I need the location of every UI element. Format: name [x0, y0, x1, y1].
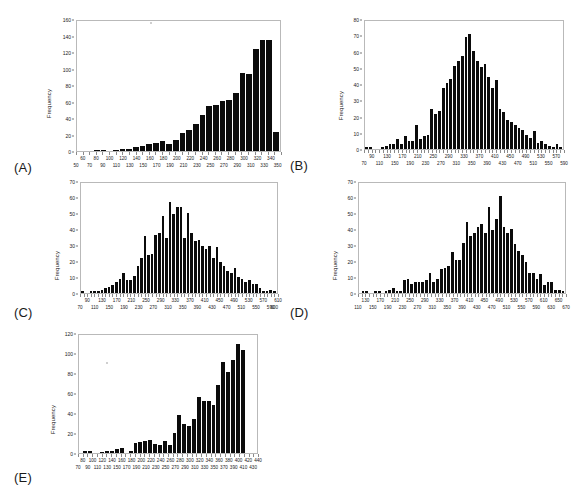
- x-tick-label: 260: [213, 156, 221, 162]
- x-tick-mark: [173, 454, 174, 457]
- x-tick-label: 270: [149, 305, 157, 311]
- x-tick-mark: [500, 294, 501, 297]
- x-tick-mark: [163, 454, 164, 457]
- panel-e-xlabels-lower: 7090110130150170190210230250270290310330…: [78, 465, 258, 472]
- x-tick-mark: [116, 294, 117, 297]
- x-tick-label: 600: [270, 305, 278, 311]
- x-tick-label: 120: [98, 458, 106, 464]
- x-tick-label: 350: [468, 161, 476, 167]
- x-tick-mark: [492, 150, 493, 153]
- x-tick-mark: [394, 150, 395, 153]
- x-tick-mark: [244, 454, 245, 457]
- x-tick-mark: [409, 294, 410, 297]
- x-tick-mark: [253, 454, 254, 457]
- x-tick-label: 390: [483, 161, 491, 167]
- x-tick-label: 610: [540, 298, 548, 304]
- x-tick-label: 170: [123, 465, 131, 471]
- histogram-bar: [369, 147, 373, 149]
- x-tick-mark: [163, 294, 164, 297]
- histogram-bar: [133, 147, 140, 151]
- histogram-bar: [220, 101, 227, 151]
- x-tick-label: 150: [113, 465, 121, 471]
- x-tick-label: 340: [206, 458, 214, 464]
- panel-c: (C) Frequency 010203040506070 9013017021…: [0, 178, 300, 328]
- x-tick-mark: [457, 294, 458, 297]
- x-tick-mark: [97, 454, 98, 457]
- x-tick-mark: [387, 294, 388, 297]
- x-tick-mark: [471, 294, 472, 297]
- x-tick-mark: [500, 150, 501, 153]
- y-tick-label: 20: [353, 115, 362, 120]
- x-tick-label: 250: [142, 298, 150, 304]
- x-tick-label: 510: [503, 305, 511, 311]
- x-tick-label: 250: [406, 298, 414, 304]
- x-tick-mark: [177, 294, 178, 297]
- x-tick-label: 590: [560, 161, 568, 167]
- x-tick-mark: [447, 150, 448, 153]
- x-tick-mark: [138, 294, 139, 297]
- panel-a-xlabels-lower: 5070901101301501701902102302502702903103…: [76, 163, 281, 170]
- x-tick-mark: [106, 454, 107, 457]
- x-tick-mark: [192, 294, 193, 297]
- x-tick-mark: [515, 150, 516, 153]
- y-tick-label: 30: [353, 99, 362, 104]
- x-tick-mark: [202, 152, 203, 155]
- panel-d-bars: [359, 183, 565, 293]
- x-tick-label: 120: [119, 156, 127, 162]
- x-tick-label: 150: [105, 305, 113, 311]
- x-tick-label: 310: [191, 465, 199, 471]
- x-tick-mark: [496, 150, 497, 153]
- x-tick-label: 190: [133, 465, 141, 471]
- histogram-bar: [166, 144, 173, 151]
- y-tick-label: 0: [350, 292, 356, 297]
- histogram-bar: [146, 144, 153, 151]
- x-tick-mark: [267, 294, 268, 297]
- x-tick-mark: [144, 454, 145, 457]
- y-tick-label: 60: [65, 100, 74, 105]
- y-tick-label: 100: [63, 67, 74, 72]
- x-tick-label: 510: [237, 305, 245, 311]
- x-tick-label: 230: [135, 305, 143, 311]
- x-tick-mark: [192, 454, 193, 457]
- x-tick-mark: [420, 294, 421, 297]
- x-tick-label: 320: [254, 156, 262, 162]
- panel-e-xlabels-upper: 8010012014016018020022024026028030032034…: [78, 458, 258, 465]
- x-tick-label: 110: [113, 163, 120, 169]
- y-tick-label: 60: [347, 196, 356, 201]
- x-tick-mark: [384, 294, 385, 297]
- histogram-bar: [246, 74, 253, 151]
- x-tick-label: 320: [196, 458, 204, 464]
- x-tick-mark: [91, 294, 92, 297]
- x-tick-label: 450: [506, 154, 514, 160]
- x-tick-label: 90: [369, 154, 374, 160]
- x-tick-mark: [89, 152, 90, 155]
- x-tick-label: 190: [120, 305, 128, 311]
- panel-d-xlabels-upper: 1301702102502903303704104504905305706106…: [358, 298, 566, 305]
- x-tick-mark: [235, 152, 236, 155]
- y-tick-label: 140: [63, 34, 74, 39]
- panel-a-xaxis: 6080100120140160180200220240260280300320…: [76, 152, 281, 174]
- x-tick-mark: [125, 454, 126, 457]
- x-tick-mark: [122, 152, 123, 155]
- x-tick-mark: [489, 294, 490, 297]
- x-tick-mark: [145, 294, 146, 297]
- x-tick-label: 610: [274, 298, 282, 304]
- x-tick-mark: [274, 294, 275, 297]
- x-tick-mark: [206, 454, 207, 457]
- x-tick-label: 290: [421, 298, 429, 304]
- x-tick-mark: [159, 454, 160, 457]
- x-tick-mark: [241, 152, 242, 155]
- y-tick-label: 0: [356, 148, 362, 153]
- x-tick-mark: [174, 294, 175, 297]
- histogram-bar: [260, 40, 267, 151]
- x-tick-mark: [256, 294, 257, 297]
- y-tick-label: 40: [65, 117, 74, 122]
- x-tick-label: 530: [510, 298, 518, 304]
- x-tick-mark: [149, 454, 150, 457]
- x-tick-mark: [380, 294, 381, 297]
- x-tick-mark: [199, 294, 200, 297]
- x-tick-label: 110: [354, 305, 361, 311]
- x-tick-mark: [424, 150, 425, 153]
- histogram-bar: [559, 147, 563, 149]
- y-tick-label: 20: [65, 133, 74, 138]
